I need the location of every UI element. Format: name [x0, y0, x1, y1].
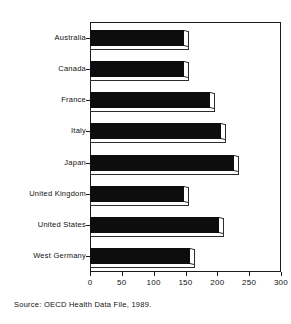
bar-front-face [90, 30, 184, 46]
x-axis-tick-mark [281, 272, 282, 276]
bar-front-face [90, 92, 210, 108]
x-axis-tick-mark [186, 272, 187, 276]
bar [90, 30, 192, 52]
bar [90, 248, 198, 270]
y-axis-tick-label: Japan [64, 158, 86, 168]
x-axis-tick-label: 300 [274, 278, 288, 287]
x-axis: 050100150200250300 [90, 272, 281, 292]
x-axis-tick-label: 100 [147, 278, 161, 287]
bar-front-face [90, 61, 184, 77]
y-axis-category-labels: AustraliaCanadaFranceItalyJapanUnited Ki… [0, 22, 86, 272]
y-axis-tick-label: West Germany [33, 251, 86, 261]
x-axis-tick-mark [249, 272, 250, 276]
y-axis-tick-label: United Kingdom [29, 189, 86, 199]
y-axis-tick-label: France [61, 95, 86, 105]
y-axis-tick-label: United States [38, 220, 86, 230]
bar-front-face [90, 186, 184, 202]
y-axis-tick-label: Australia [55, 33, 86, 43]
x-axis-tick-label: 150 [178, 278, 192, 287]
bar-front-face [90, 248, 190, 264]
bar-side-cap [210, 92, 215, 109]
bar-side-cap [184, 186, 189, 203]
bar-side-cap [184, 30, 189, 47]
bar [90, 123, 229, 145]
bar [90, 92, 218, 114]
x-axis-tick-mark [122, 272, 123, 276]
bars-layer [90, 22, 281, 272]
bar [90, 186, 192, 208]
bar-side-cap [190, 248, 195, 265]
bar [90, 155, 242, 177]
bar-side-cap [221, 123, 226, 140]
bar [90, 61, 192, 83]
x-axis-tick-mark [154, 272, 155, 276]
x-axis-tick-mark [217, 272, 218, 276]
bar [90, 217, 227, 239]
x-axis-tick-label: 0 [88, 278, 93, 287]
y-axis-tick-label: Italy [71, 126, 86, 136]
x-axis-tick-label: 250 [242, 278, 256, 287]
y-axis-tick-label: Canada [58, 64, 86, 74]
bar-front-face [90, 123, 221, 139]
bar-side-cap [234, 155, 239, 172]
source-note: Source: OECD Health Data File, 1989. [14, 300, 151, 309]
x-axis-tick-label: 50 [117, 278, 127, 287]
chart-figure: AustraliaCanadaFranceItalyJapanUnited Ki… [0, 0, 291, 324]
bar-side-cap [184, 61, 189, 78]
bar-front-face [90, 217, 219, 233]
x-axis-tick-mark [90, 272, 91, 276]
bar-side-cap [219, 217, 224, 234]
x-axis-tick-label: 200 [210, 278, 224, 287]
bar-front-face [90, 155, 234, 171]
